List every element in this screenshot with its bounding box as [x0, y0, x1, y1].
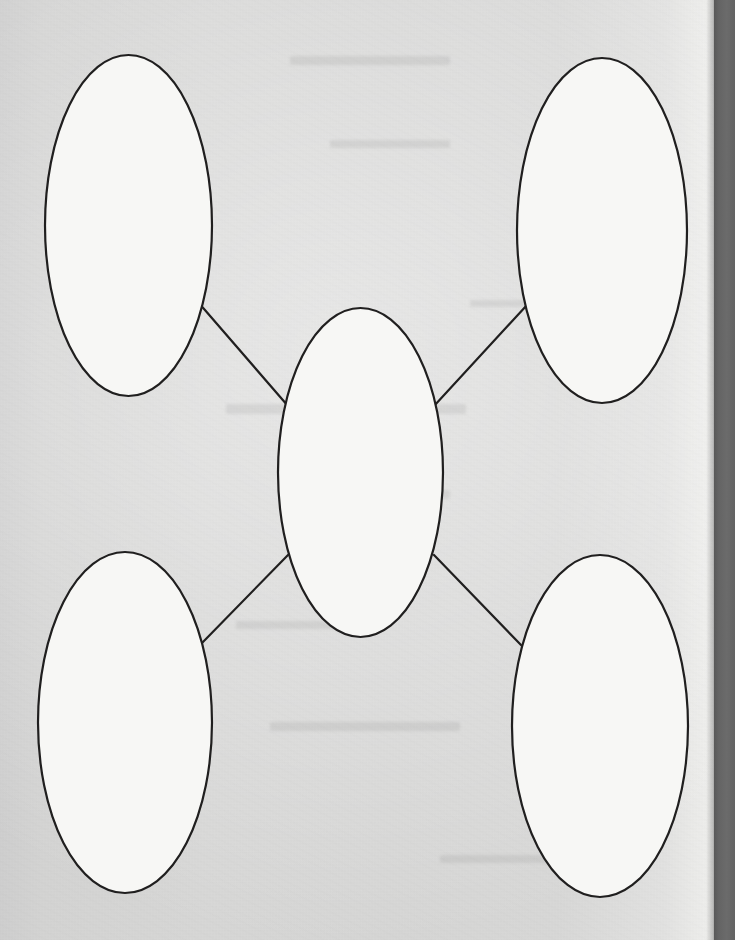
node-ellipse-top-left[interactable] — [45, 55, 212, 396]
concept-node-top-left[interactable] — [45, 55, 212, 396]
connector-center-to-top-right — [434, 305, 527, 406]
connector-center-to-bottom-left — [202, 555, 288, 643]
concept-map-diagram — [0, 0, 735, 940]
concept-nodes-group — [38, 55, 688, 897]
node-ellipse-center[interactable] — [278, 308, 443, 637]
scanned-page — [0, 0, 735, 940]
connector-center-to-bottom-right — [434, 555, 521, 645]
node-ellipse-bottom-left[interactable] — [38, 552, 212, 893]
concept-node-bottom-right[interactable] — [512, 555, 688, 897]
node-ellipse-top-right[interactable] — [517, 58, 687, 403]
connector-center-to-top-left — [198, 302, 288, 406]
concept-node-top-right[interactable] — [517, 58, 687, 403]
node-ellipse-bottom-right[interactable] — [512, 555, 688, 897]
concept-node-bottom-left[interactable] — [38, 552, 212, 893]
concept-node-center[interactable] — [278, 308, 443, 637]
